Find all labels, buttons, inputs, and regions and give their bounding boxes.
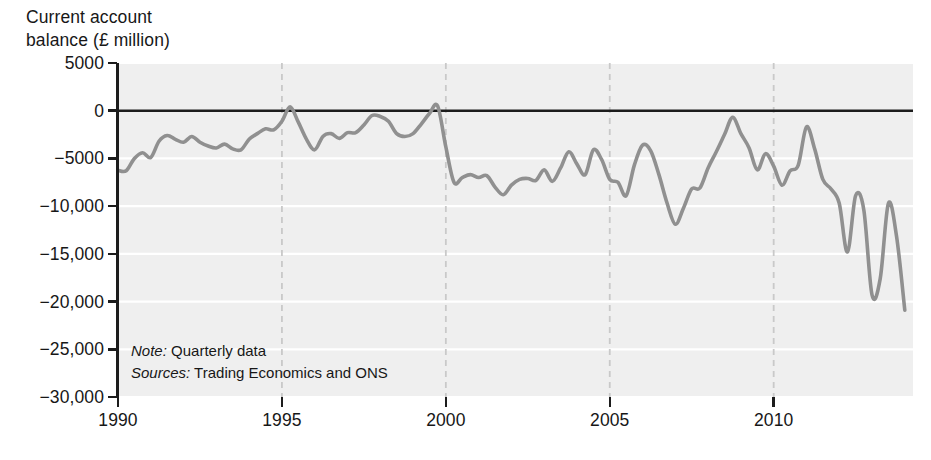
note-row-quarterly: Note: Quarterly data (131, 340, 388, 362)
x-axis-tick (772, 397, 775, 407)
note-row-sources: Sources: Trading Economics and ONS (131, 362, 388, 384)
x-axis-ticks-and-labels: 19901995200020052010 (0, 0, 931, 460)
x-axis-tick (281, 397, 284, 407)
x-axis-tick (609, 397, 612, 407)
x-axis-tick (117, 397, 120, 407)
x-axis-tick-label: 2000 (426, 410, 465, 431)
chart-notes: Note: Quarterly data Sources: Trading Ec… (131, 340, 388, 384)
note-value: Quarterly data (171, 342, 266, 359)
x-axis-tick (445, 397, 448, 407)
x-axis-tick-label: 1990 (98, 410, 137, 431)
note-label: Note: (131, 342, 167, 359)
sources-value: Trading Economics and ONS (194, 364, 388, 381)
current-account-balance-chart: Current account balance (£ million) 5000… (0, 0, 931, 460)
x-axis-tick-label: 2005 (590, 410, 629, 431)
x-axis-tick-label: 1995 (262, 410, 301, 431)
x-axis-tick-label: 2010 (754, 410, 793, 431)
sources-label: Sources: (131, 364, 190, 381)
